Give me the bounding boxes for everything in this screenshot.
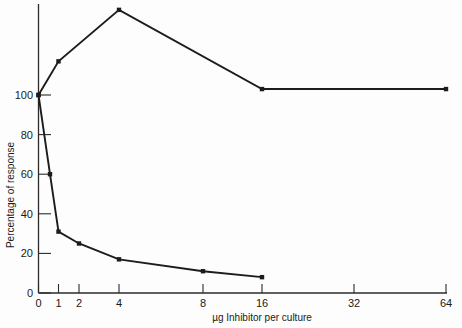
series-line-1	[39, 95, 263, 277]
x-tick-label-8: 8	[200, 297, 206, 309]
series-layer	[36, 8, 448, 280]
x-tick-label-32: 32	[348, 297, 360, 309]
data-point	[56, 229, 60, 233]
y-axis-ticks	[39, 95, 52, 293]
data-point	[56, 59, 60, 63]
y-tick-label-40: 40	[21, 208, 33, 220]
data-point	[260, 275, 264, 279]
x-axis-ticks	[39, 284, 447, 293]
y-tick-label-80: 80	[21, 129, 33, 141]
y-axis-title: Percentage of response	[5, 141, 16, 248]
line-chart-plot: 0 20 40 60 80 100 0 1 2 4 8 16 32 64 µg …	[0, 0, 462, 328]
y-tick-label-100: 100	[15, 89, 33, 101]
data-point	[117, 257, 121, 261]
x-tick-label-16: 16	[256, 297, 268, 309]
x-tick-label-2: 2	[76, 297, 82, 309]
x-axis-title: µg Inhibitor per culture	[212, 312, 312, 323]
data-point	[77, 241, 81, 245]
x-tick-label-4: 4	[116, 297, 122, 309]
data-point	[117, 8, 121, 12]
data-point	[260, 87, 264, 91]
y-tick-label-20: 20	[21, 247, 33, 259]
y-tick-label-60: 60	[21, 168, 33, 180]
data-point	[444, 87, 448, 91]
x-tick-label-64: 64	[440, 297, 452, 309]
y-tick-label-0: 0	[27, 287, 33, 299]
data-point	[36, 93, 40, 97]
chart-figure: 0 20 40 60 80 100 0 1 2 4 8 16 32 64 µg …	[0, 0, 462, 328]
series-line-0	[39, 10, 447, 95]
data-point	[201, 269, 205, 273]
data-point	[48, 172, 52, 176]
x-tick-label-1: 1	[55, 297, 61, 309]
x-tick-label-0: 0	[35, 297, 41, 309]
